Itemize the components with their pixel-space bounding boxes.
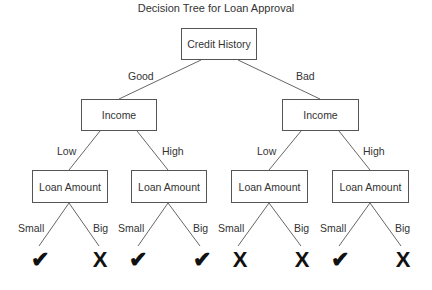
node-income-right: Income — [282, 99, 359, 131]
node-label: Credit History — [187, 38, 251, 50]
node-label: Income — [303, 109, 337, 121]
node-label: Loan Amount — [340, 181, 402, 193]
check-icon: ✔ — [330, 247, 350, 273]
edge-label-high: High — [162, 145, 184, 157]
check-icon: ✔ — [30, 247, 50, 273]
edge-label-high: High — [363, 145, 385, 157]
node-loan-amount: Loan Amount — [32, 170, 108, 203]
edge-label-small: Small — [218, 222, 244, 234]
cross-icon: X — [292, 247, 312, 273]
edge-label-big: Big — [93, 222, 108, 234]
cross-icon: X — [393, 247, 413, 273]
edge-label-good: Good — [128, 70, 154, 82]
cross-icon: X — [230, 247, 250, 273]
node-credit-history: Credit History — [181, 28, 257, 60]
node-loan-amount: Loan Amount — [131, 170, 207, 203]
edge-label-big: Big — [395, 222, 410, 234]
edge-label-big: Big — [294, 222, 309, 234]
edge-label-small: Small — [118, 222, 144, 234]
node-loan-amount: Loan Amount — [231, 170, 308, 203]
node-loan-amount: Loan Amount — [332, 170, 409, 203]
edge-label-big: Big — [193, 222, 208, 234]
edge-label-bad: Bad — [296, 70, 315, 82]
cross-icon: X — [90, 247, 110, 273]
edge-label-low: Low — [257, 145, 276, 157]
node-label: Loan Amount — [138, 181, 200, 193]
node-label: Income — [102, 109, 136, 121]
check-icon: ✔ — [192, 247, 212, 273]
node-income-left: Income — [81, 99, 157, 131]
edge-label-small: Small — [18, 222, 44, 234]
check-icon: ✔ — [128, 247, 148, 273]
node-label: Loan Amount — [239, 181, 301, 193]
edge-label-low: Low — [57, 145, 76, 157]
node-label: Loan Amount — [39, 181, 101, 193]
edge-label-small: Small — [320, 222, 346, 234]
